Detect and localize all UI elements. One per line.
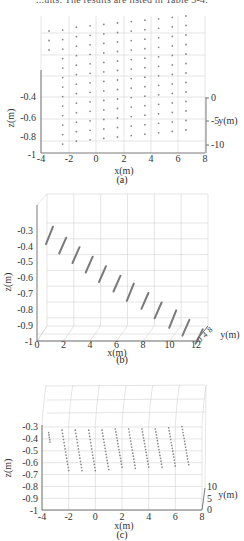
x-tick: -2 — [64, 511, 72, 522]
z-tick: -1 — [28, 149, 36, 160]
z-tick: -0.6 — [17, 272, 33, 283]
x-tick: 8 — [203, 153, 208, 164]
y-axis-label: y(m) — [218, 489, 237, 501]
x-tick: 4 — [146, 511, 151, 522]
y-tick: 0 — [211, 92, 216, 103]
x-tick: 4 — [149, 153, 154, 164]
grid-lines — [37, 194, 208, 341]
data-segment — [182, 320, 189, 336]
z-tick: -0.6 — [20, 112, 36, 123]
data-segment — [169, 310, 176, 327]
x-tick-labels: -4-202468 — [37, 153, 208, 164]
y-axis-label: y(m) — [218, 115, 237, 127]
z-tick: -0.4 — [17, 241, 33, 252]
x-tick: -2 — [65, 153, 73, 164]
z-axis-label: z(m) — [2, 459, 14, 478]
data-segment — [59, 238, 66, 254]
x-tick: 10 — [165, 339, 175, 350]
z-tick: -0.8 — [22, 481, 38, 492]
x-tick: 0 — [93, 511, 98, 522]
x-tick: 8 — [141, 339, 146, 350]
x-tick: -4 — [37, 153, 45, 164]
z-tick-labels: -0.3-0.4-0.5-0.6-0.7-0.8-0.9-1 — [17, 225, 33, 347]
y-tick: 0 — [207, 504, 212, 515]
z-tick: -0.7 — [17, 288, 33, 299]
z-tick: -0.6 — [22, 457, 38, 468]
data-segment — [99, 266, 106, 282]
x-tick: -4 — [38, 511, 46, 522]
x-tick: 8 — [200, 511, 205, 522]
y-tick-labels: 0510 — [207, 481, 217, 515]
chart-panel-a: -4-202468 -0.4-0.6-0.8-1 0-5-10 x(m) z(m… — [0, 0, 244, 180]
z-tick: -0.5 — [17, 256, 33, 267]
z-tick: -0.9 — [17, 320, 33, 331]
x-tick: 2 — [61, 339, 66, 350]
z-axis-label: z(m) — [5, 109, 17, 128]
data-segment — [141, 293, 148, 309]
x-tick: 0 — [35, 339, 40, 350]
caption-c: (c) — [0, 529, 244, 540]
z-tick: -0.4 — [22, 433, 38, 444]
y-tick: 8 — [206, 325, 215, 334]
grid-lines — [41, 16, 205, 153]
x-tick: 4 — [88, 339, 93, 350]
z-tick: -0.8 — [17, 304, 33, 315]
z-tick: -0.7 — [22, 469, 38, 480]
chart-panel-c: -4-202468 -0.3-0.4-0.5-0.6-0.7-0.8-0.9-1… — [0, 366, 244, 541]
chart-panel-b: 024681012 -0.3-0.4-0.5-0.6-0.7-0.8-0.9-1… — [0, 180, 244, 360]
grid-lines — [42, 385, 207, 510]
x-tick: 6 — [173, 511, 178, 522]
x-tick: 6 — [176, 153, 181, 164]
z-tick: -0.3 — [17, 225, 33, 236]
y-tick-labels: 048 — [196, 325, 215, 344]
z-tick: -0.5 — [22, 445, 38, 456]
data-segment — [155, 303, 162, 319]
y-tick: 5 — [207, 493, 212, 504]
z-tick: -0.4 — [20, 91, 36, 102]
z-tick: -1 — [25, 336, 33, 347]
z-tick: -1 — [30, 505, 38, 516]
caption-b: (b) — [0, 354, 244, 365]
z-axis-label: z(m) — [2, 273, 14, 292]
x-tick: 2 — [122, 153, 127, 164]
z-tick: -0.9 — [22, 493, 38, 504]
z-tick: -0.8 — [20, 131, 36, 142]
z-tick: -0.3 — [22, 421, 38, 432]
y-tick: 10 — [207, 481, 217, 492]
y-axis-label: y(m) — [220, 329, 239, 341]
z-tick-labels: -0.4-0.6-0.8-1 — [20, 91, 36, 160]
x-tick: 0 — [94, 153, 99, 164]
data-points — [48, 426, 190, 472]
z-tick-labels: -0.3-0.4-0.5-0.6-0.7-0.8-0.9-1 — [22, 421, 38, 516]
y-tick: -10 — [211, 139, 224, 150]
data-segment — [114, 276, 121, 292]
